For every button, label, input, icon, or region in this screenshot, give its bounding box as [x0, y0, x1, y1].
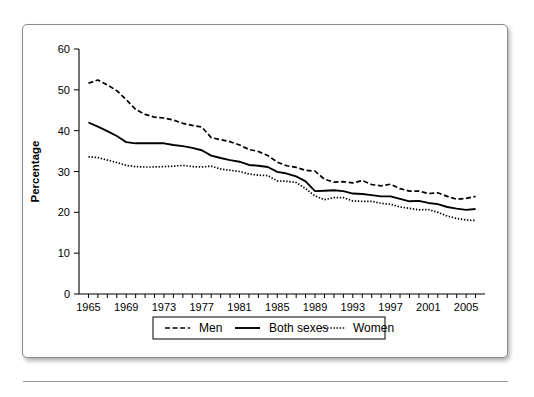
- y-tick-label: 50: [58, 84, 70, 96]
- series-line-men: [88, 80, 475, 199]
- y-tick-label: 40: [58, 125, 70, 137]
- x-tick-label: 1981: [227, 301, 251, 313]
- legend-label-women: Women: [353, 321, 394, 335]
- y-tick-label: 30: [58, 166, 70, 178]
- footer-divider: [23, 381, 508, 382]
- x-tick-label: 1977: [190, 301, 214, 313]
- y-tick-label: 10: [58, 247, 70, 259]
- x-tick-label: 1997: [378, 301, 402, 313]
- x-tick-label: 2001: [416, 301, 440, 313]
- figure-wrapper: 0102030405060196519691973197719811985198…: [0, 0, 534, 397]
- x-tick-label: 1969: [114, 301, 138, 313]
- y-tick-label: 20: [58, 206, 70, 218]
- x-tick-label: 1973: [152, 301, 176, 313]
- y-tick-label: 0: [64, 288, 70, 300]
- legend-label-both-sexes: Both sexes: [269, 321, 328, 335]
- x-tick-label: 1965: [76, 301, 100, 313]
- line-chart: 0102030405060196519691973197719811985198…: [23, 25, 509, 359]
- series-line-women: [88, 157, 475, 221]
- x-tick-label: 2005: [454, 301, 478, 313]
- y-tick-label: 60: [58, 43, 70, 55]
- y-axis-title: Percentage: [29, 140, 41, 202]
- legend-label-men: Men: [199, 321, 222, 335]
- x-tick-label: 1989: [303, 301, 327, 313]
- chart-panel: 0102030405060196519691973197719811985198…: [22, 24, 508, 358]
- x-tick-label: 1993: [341, 301, 365, 313]
- x-tick-label: 1985: [265, 301, 289, 313]
